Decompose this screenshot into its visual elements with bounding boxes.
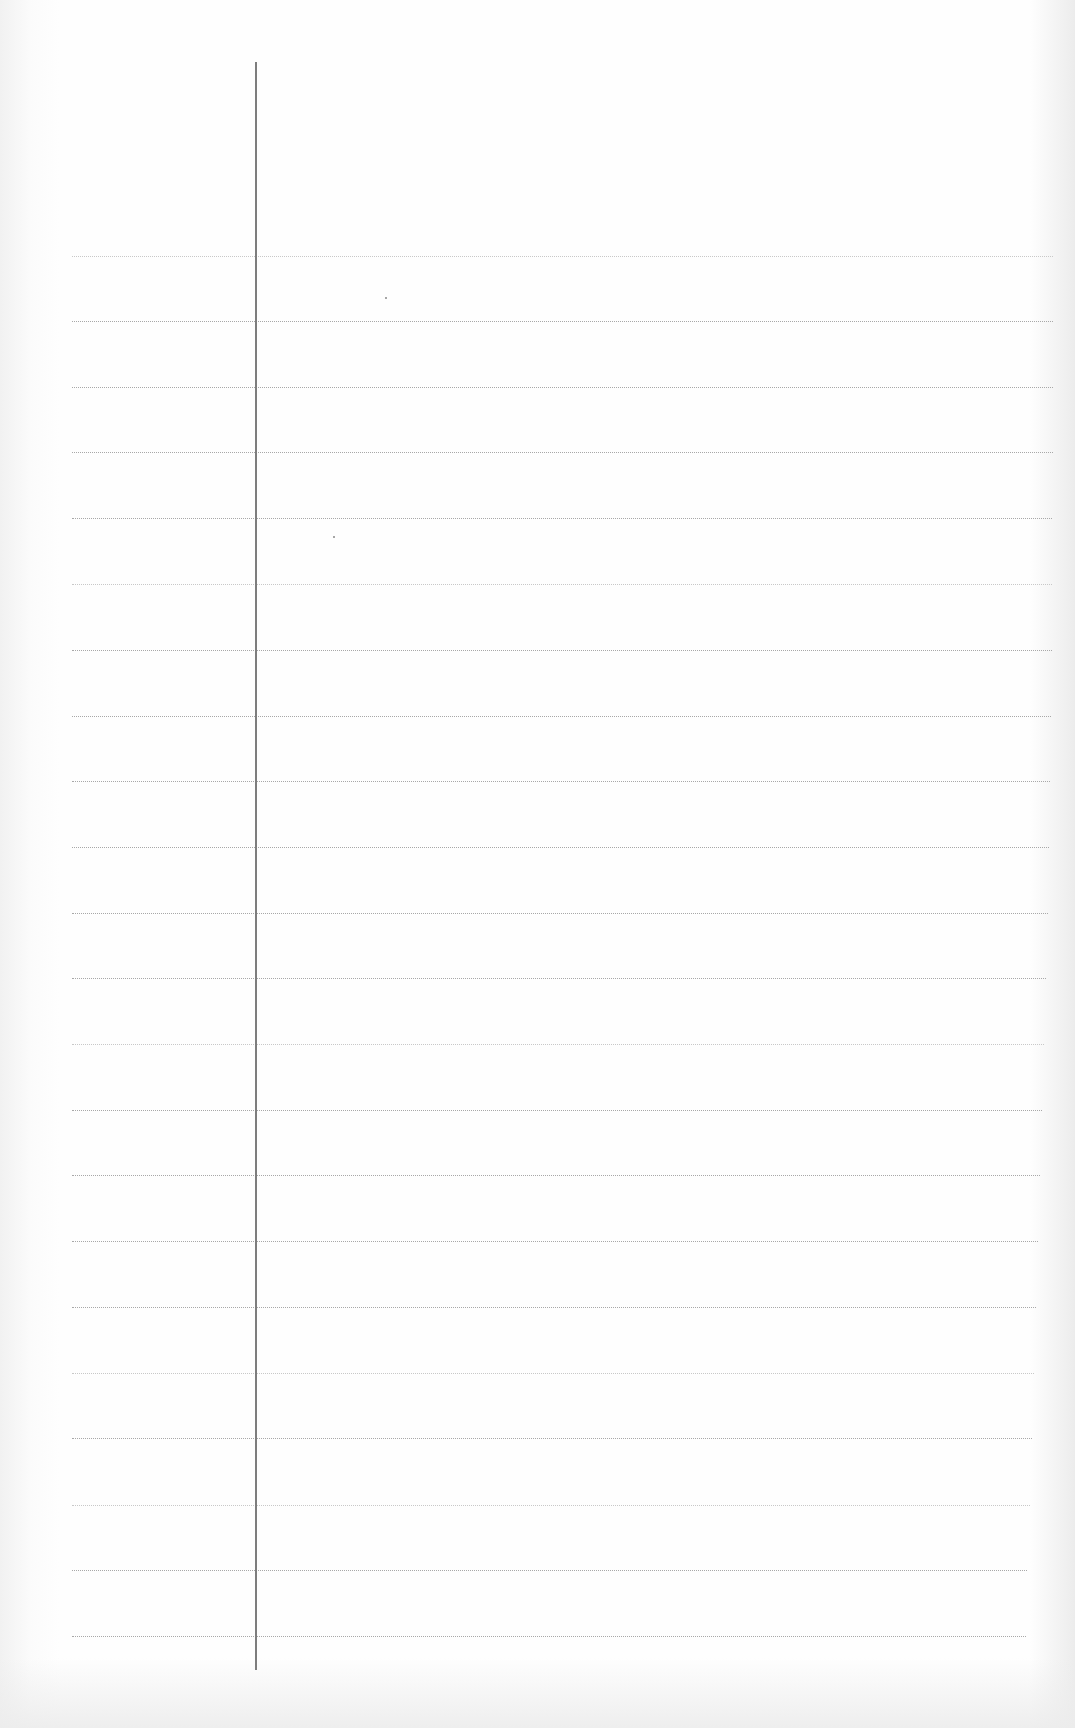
ruled-line — [72, 781, 1050, 782]
page-shadow — [0, 1658, 1075, 1728]
ruled-line — [72, 1241, 1038, 1242]
ruled-line — [72, 650, 1052, 651]
ruled-line — [72, 1110, 1042, 1111]
ruled-line — [72, 1175, 1040, 1176]
ruled-line — [72, 1570, 1027, 1571]
ruled-line — [72, 518, 1052, 519]
ruled-line — [72, 584, 1052, 585]
paper-speck — [385, 297, 387, 299]
ruled-line — [72, 1373, 1034, 1374]
ruled-line — [72, 321, 1053, 322]
ruled-line — [72, 1636, 1026, 1637]
ruled-line — [72, 1044, 1044, 1045]
ruled-line — [72, 1505, 1030, 1506]
paper-speck — [333, 536, 335, 538]
ruled-line — [72, 978, 1046, 979]
ruled-line — [72, 847, 1049, 848]
ruled-line — [72, 1307, 1036, 1308]
ruled-line — [72, 716, 1051, 717]
ruled-line — [72, 913, 1048, 914]
ruled-line — [72, 1438, 1032, 1439]
ruled-line — [72, 387, 1053, 388]
margin-line — [255, 62, 257, 1670]
notebook-page — [0, 0, 1075, 1728]
ruled-line — [72, 452, 1053, 453]
ruled-line — [72, 256, 1053, 257]
